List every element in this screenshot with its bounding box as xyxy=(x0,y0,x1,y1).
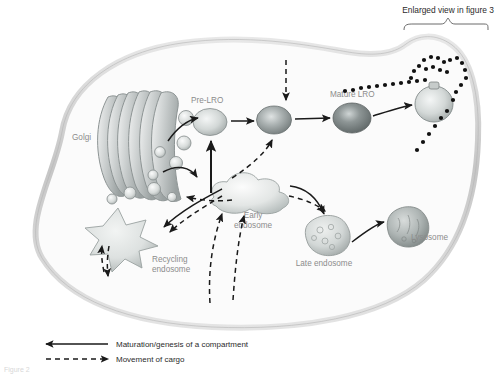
enlarged-view-label: Enlarged view in figure 3 xyxy=(402,5,494,15)
fusion-neck xyxy=(429,82,439,89)
lysosome-label: Lysosome xyxy=(411,233,448,242)
pre-lro-label: Pre-LRO xyxy=(191,96,223,105)
early-endosome-label-line1: Early xyxy=(244,211,264,220)
recycling-endosome-label-line2: endosome xyxy=(152,265,191,274)
arrow-intermediate-to-mature xyxy=(295,118,330,119)
figure-caption-partial: Figure 2 xyxy=(4,366,124,376)
legend-row-cargo: Movement of cargo xyxy=(46,355,185,364)
mature-lro-body xyxy=(333,103,371,133)
early-endosome-label-line2: endosome xyxy=(234,221,273,230)
legend-label-cargo: Movement of cargo xyxy=(116,355,185,364)
late-endosome xyxy=(305,215,350,255)
intermediate-lro-body xyxy=(257,106,292,134)
recycling-endosome-label-line1: Recycling xyxy=(152,255,188,264)
cell-diagram-svg: Enlarged view in figure 3 Golgi xyxy=(0,0,499,378)
golgi-label: Golgi xyxy=(72,133,91,142)
late-endosome-label: Late endosome xyxy=(296,259,353,268)
figure-canvas: Enlarged view in figure 3 Golgi xyxy=(0,0,499,378)
legend-row-maturation: Maturation/genesis of a compartment xyxy=(46,340,249,349)
pre-lro-body xyxy=(193,109,227,136)
enlarged-view-brace xyxy=(404,18,488,30)
legend: Maturation/genesis of a compartment Move… xyxy=(46,340,249,364)
legend-label-maturation: Maturation/genesis of a compartment xyxy=(116,340,249,349)
docked-lro-body xyxy=(415,86,453,122)
